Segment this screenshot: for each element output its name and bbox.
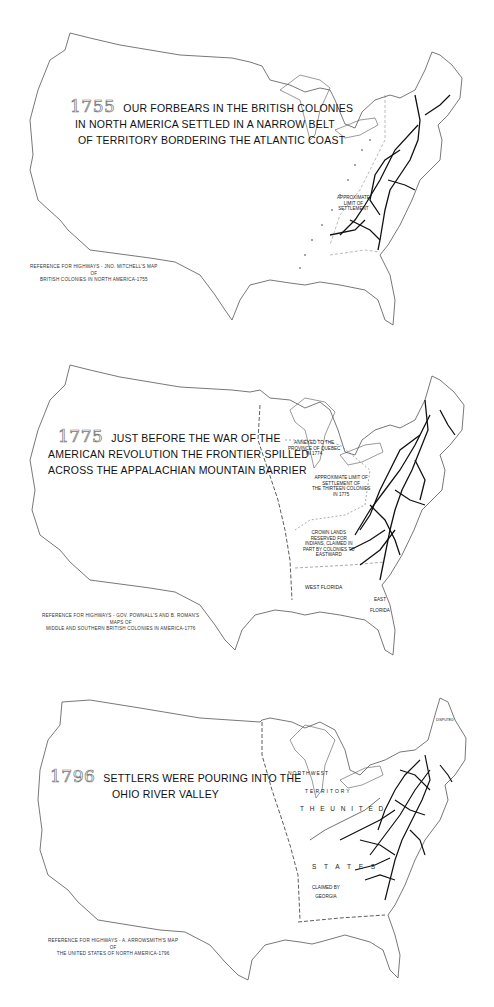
label-settlement-limit: APPROXIMATE LIMIT OF SETTLEMENT	[337, 195, 370, 212]
label-disputed: DISPUTED	[436, 718, 454, 724]
caption-1775: 1775JUST BEFORE THE WAR OF THE AMERICAN …	[48, 428, 309, 478]
caption-line: OUR FORBEARS IN THE BRITISH COLONIES	[123, 102, 353, 114]
us-outline-map-1796	[0, 680, 494, 1007]
caption-1755: 1755OUR FORBEARS IN THE BRITISH COLONIES…	[70, 98, 353, 148]
highway-reference-1775: REFERENCE FOR HIGHWAYS - GOV. POWNALL'S …	[42, 613, 199, 633]
us-outline	[30, 365, 464, 655]
highway-reference-1796: REFERENCE FOR HIGHWAYS - A. ARROWSMITH'S…	[48, 938, 178, 958]
label-the-united: T H E U N I T E D	[300, 805, 385, 812]
caption-line: ACROSS THE APPALACHIAN MOUNTAIN BARRIER	[48, 462, 309, 478]
caption-line: IN NORTH AMERICA SETTLED IN A NARROW BEL…	[70, 116, 353, 132]
us-outline-map-1755	[0, 0, 494, 340]
florida-boundary	[298, 915, 385, 922]
highway-reference-1755: REFERENCE FOR HIGHWAYS - JNO. MITCHELL'S…	[30, 264, 158, 284]
map-panel-1796: 1796SETTLERS WERE POURING INTO THE OHIO …	[0, 680, 494, 1007]
caption-line: OHIO RIVER VALLEY	[50, 786, 301, 802]
label-west-florida: WEST FLORIDA	[305, 585, 342, 591]
year-label: 1775	[58, 426, 103, 446]
label-northwest: NORTHWEST	[288, 770, 329, 776]
label-settlement-limit: APPROXIMATE LIMIT OF SETTLEMENT OF THE T…	[312, 475, 370, 497]
label-crown-lands: CROWN LANDS RESERVED FOR INDIANS, CLAIME…	[303, 530, 355, 558]
year-label: 1755	[70, 96, 115, 116]
label-quebec: ANNEXED TO THE PROVINCE OF QUEBEC IN 177…	[288, 440, 340, 457]
caption-line: AMERICAN REVOLUTION THE FRONTIER SPILLED	[48, 446, 309, 462]
caption-line: JUST BEFORE THE WAR OF THE	[111, 432, 280, 444]
west-florida-boundary	[295, 562, 385, 568]
caption-line: OF TERRITORY BORDERING THE ATLANTIC COAS…	[70, 132, 353, 148]
caption-line: SETTLERS WERE POURING INTO THE	[103, 772, 301, 784]
year-label: 1796	[50, 766, 95, 786]
caption-1796: 1796SETTLERS WERE POURING INTO THE OHIO …	[50, 768, 301, 802]
map-panel-1775: 1775JUST BEFORE THE WAR OF THE AMERICAN …	[0, 340, 494, 680]
louisiana-boundary	[262, 722, 300, 920]
state-roads	[340, 755, 452, 900]
label-states: S T A T E S	[312, 863, 378, 870]
label-claimed-by-georgia: CLAIMED BY GEORGIA	[312, 885, 340, 899]
map-panel-1755: 1755OUR FORBEARS IN THE BRITISH COLONIES…	[0, 0, 494, 340]
label-east-florida: EAST FLORIDA	[370, 597, 390, 613]
label-territory: TERRITORY	[305, 788, 352, 794]
